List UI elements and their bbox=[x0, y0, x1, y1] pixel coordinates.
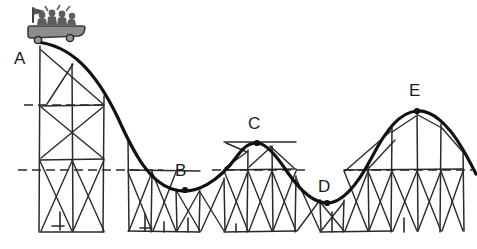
point-marker-b bbox=[182, 187, 188, 193]
point-marker-d bbox=[324, 200, 330, 206]
point-label-d: D bbox=[318, 178, 330, 195]
point-label-b: B bbox=[175, 162, 186, 179]
roller-coaster-scene bbox=[0, 0, 477, 249]
roller-coaster-car bbox=[28, 5, 85, 44]
roller-coaster-figure: A B C D E bbox=[0, 0, 477, 249]
support-scaffolding bbox=[39, 46, 464, 232]
point-marker-c bbox=[254, 140, 260, 146]
car-passengers bbox=[34, 5, 76, 25]
scaffold-vertical-posts bbox=[39, 46, 464, 232]
point-marker-e bbox=[414, 108, 420, 114]
point-label-c: C bbox=[248, 115, 260, 132]
point-label-a: A bbox=[14, 50, 25, 67]
point-label-e: E bbox=[409, 82, 420, 99]
